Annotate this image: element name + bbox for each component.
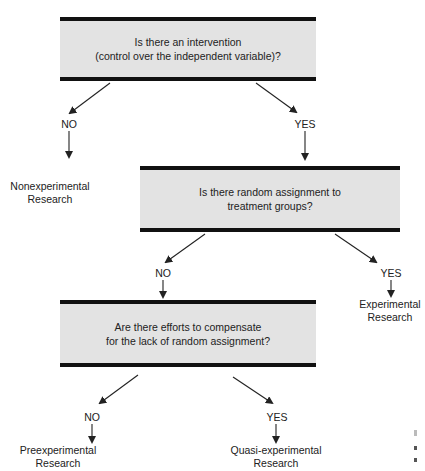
branch-label-q3-yes: YES bbox=[262, 411, 292, 424]
outcome-preexperimental: Preexperimental Research bbox=[18, 444, 98, 470]
edge-artifact bbox=[414, 458, 417, 462]
branch-label-q1-no: NO bbox=[56, 118, 82, 131]
outcome-experimental: Experimental Research bbox=[354, 298, 425, 324]
outcome-quasi-experimental: Quasi-experimental Research bbox=[226, 444, 326, 470]
branch-label-q1-yes: YES bbox=[290, 118, 320, 131]
outcome-nonexperimental: Nonexperimental Research bbox=[10, 180, 90, 206]
branch-label-q3-no: NO bbox=[79, 411, 105, 424]
branch-label-q2-yes: YES bbox=[376, 267, 406, 280]
branch-label-q2-no: NO bbox=[150, 267, 176, 280]
edge-artifact bbox=[414, 446, 417, 450]
edge-artifact bbox=[414, 430, 417, 436]
